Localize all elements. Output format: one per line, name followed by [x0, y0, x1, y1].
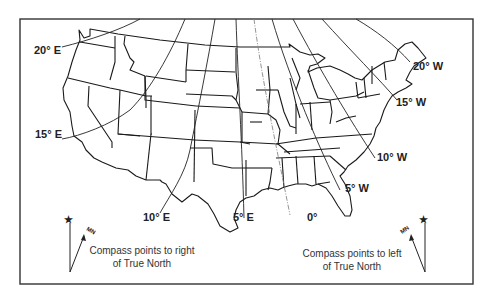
- label-5e: 5° E: [233, 211, 254, 223]
- label-15w: 15° W: [396, 96, 426, 108]
- isogonic-line-15w: [322, 19, 397, 100]
- true-north-star-icon-west: ★: [419, 214, 428, 225]
- label-20w: 20° W: [413, 60, 443, 72]
- mn-label-west: MN: [399, 225, 410, 235]
- legend-east-text: Compass points to right of True North: [82, 244, 202, 270]
- label-10w: 10° W: [377, 151, 407, 163]
- isogonic-line-20e: [62, 19, 140, 47]
- magnetic-arrow-head: [81, 234, 86, 241]
- label-5w: 5° W: [345, 182, 369, 194]
- label-15e: 15° E: [35, 128, 62, 140]
- declination-map: MN MN: [0, 0, 493, 303]
- label-20e: 20° E: [34, 44, 61, 56]
- legend-east-line1: Compass points to right: [82, 244, 202, 257]
- label-0: 0°: [307, 211, 318, 223]
- legend-west-line2: of True North: [297, 260, 407, 273]
- legend-west-line1: Compass points to left: [297, 247, 407, 260]
- legend-east-line2: of True North: [82, 257, 202, 270]
- label-10e: 10° E: [143, 211, 170, 223]
- isogonic-line-20w: [356, 19, 410, 62]
- true-north-star-icon-east: ★: [64, 214, 73, 225]
- isogonic-line-5e: [236, 19, 244, 218]
- us-states-outline: [63, 29, 426, 232]
- mn-label-east: MN: [86, 226, 97, 236]
- legend-west-text: Compass points to left of True North: [297, 247, 407, 273]
